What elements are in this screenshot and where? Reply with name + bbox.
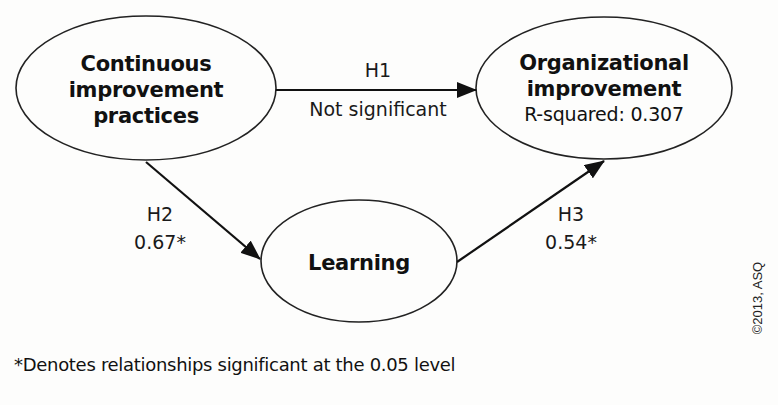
node-cip-line1: Continuous	[69, 51, 224, 77]
footnote: *Denotes relationships significant at th…	[14, 354, 455, 375]
node-org-line2: improvement	[519, 76, 689, 102]
edge-h2-label: H2 0.67*	[134, 200, 186, 256]
edge-h1-label-top: H1	[365, 56, 391, 84]
node-org-r-squared: R-squared: 0.307	[519, 102, 689, 126]
edge-h3-value: 0.54*	[545, 228, 597, 256]
path-model-diagram: Continuous improvement practices Organiz…	[0, 0, 778, 405]
node-learning: Learning	[308, 250, 410, 276]
node-org-line1: Organizational	[519, 50, 689, 76]
node-learning-title: Learning	[308, 250, 410, 276]
edge-h3-label: H3 0.54*	[545, 200, 597, 256]
node-continuous-improvement-practices: Continuous improvement practices	[69, 51, 224, 129]
edge-h3-hypothesis: H3	[545, 200, 597, 228]
edge-h1-label-bottom: Not significant	[309, 95, 446, 123]
node-cip-line3: practices	[69, 103, 224, 129]
edge-h2-value: 0.67*	[134, 228, 186, 256]
edge-h1-value: Not significant	[309, 95, 446, 123]
copyright-notice: ©2013, ASQ	[750, 262, 765, 334]
edge-h2-hypothesis: H2	[134, 200, 186, 228]
node-cip-line2: improvement	[69, 77, 224, 103]
node-organizational-improvement: Organizational improvement R-squared: 0.…	[519, 50, 689, 126]
edge-h1-hypothesis: H1	[365, 56, 391, 84]
